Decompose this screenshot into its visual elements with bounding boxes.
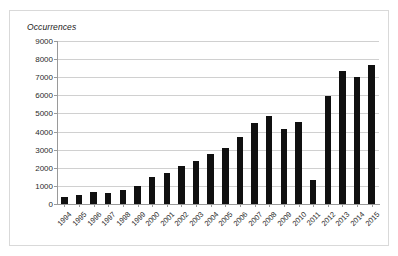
y-axis-title: Occurrences — [27, 22, 76, 32]
bar — [295, 122, 302, 204]
bar — [90, 192, 97, 204]
y-tick-label: 9000 — [13, 37, 53, 46]
bar — [339, 71, 346, 204]
x-tick-label: 1997 — [100, 210, 118, 228]
x-tick-mark — [211, 204, 212, 207]
x-tick-label: 2014 — [349, 210, 367, 228]
bar — [76, 195, 83, 204]
x-tick-mark — [79, 204, 80, 207]
y-tick-label: 6000 — [13, 91, 53, 100]
x-tick-mark — [138, 204, 139, 207]
bar — [310, 180, 317, 204]
x-tick-mark — [94, 204, 95, 207]
x-tick-mark — [284, 204, 285, 207]
x-tick-mark — [372, 204, 373, 207]
x-tick-mark — [357, 204, 358, 207]
x-tick-label: 2006 — [231, 210, 249, 228]
y-axis-ticks: 9000800070006000500040003000200010000 — [10, 41, 53, 204]
x-tick-mark — [152, 204, 153, 207]
x-tick-mark — [342, 204, 343, 207]
bar — [368, 65, 375, 204]
bar — [222, 148, 229, 204]
x-tick-mark — [123, 204, 124, 207]
bar — [149, 177, 156, 204]
bar — [237, 137, 244, 204]
y-tick-label: 7000 — [13, 73, 53, 82]
y-axis-line — [57, 41, 58, 205]
x-tick-label: 2011 — [305, 210, 322, 227]
x-tick-mark — [196, 204, 197, 207]
x-tick-mark — [181, 204, 182, 207]
x-tick-label: 1998 — [114, 210, 132, 228]
y-tick-label: 8000 — [13, 55, 53, 64]
x-tick-mark — [255, 204, 256, 207]
x-tick-mark — [313, 204, 314, 207]
x-tick-mark — [328, 204, 329, 207]
x-tick-mark — [64, 204, 65, 207]
x-tick-label: 1994 — [56, 210, 74, 228]
bar — [193, 161, 200, 204]
y-tick-label: 0 — [13, 200, 53, 209]
x-tick-label: 2009 — [275, 210, 293, 228]
x-tick-label: 2003 — [188, 210, 206, 228]
x-tick-mark — [299, 204, 300, 207]
gridline — [57, 41, 379, 42]
gridline — [57, 59, 379, 60]
bar — [281, 129, 288, 204]
y-tick-label: 1000 — [13, 181, 53, 190]
x-tick-label: 2015 — [363, 210, 381, 228]
bar — [105, 193, 112, 204]
bar — [164, 173, 171, 204]
x-tick-mark — [167, 204, 168, 207]
bar — [266, 116, 273, 204]
bar — [207, 154, 214, 204]
gridline — [57, 77, 379, 78]
y-tick-label: 2000 — [13, 163, 53, 172]
y-tick-label: 5000 — [13, 109, 53, 118]
x-tick-label: 2008 — [261, 210, 279, 228]
bar — [354, 77, 361, 204]
x-tick-mark — [240, 204, 241, 207]
y-tick-label: 4000 — [13, 127, 53, 136]
bar — [134, 186, 141, 204]
plot-area — [57, 41, 379, 204]
y-tick-label: 3000 — [13, 145, 53, 154]
x-axis-line — [57, 204, 380, 205]
x-tick-mark — [269, 204, 270, 207]
x-tick-mark — [108, 204, 109, 207]
x-tick-mark — [225, 204, 226, 207]
bar — [251, 123, 258, 205]
bar — [61, 197, 68, 204]
bar — [178, 166, 185, 204]
bar — [120, 190, 127, 204]
x-tick-label: 1995 — [70, 210, 88, 228]
x-tick-label: 2005 — [217, 210, 235, 228]
x-tick-label: 2000 — [144, 210, 162, 228]
chart-figure: Occurrences 9000800070006000500040003000… — [9, 10, 389, 246]
bar — [325, 96, 332, 204]
